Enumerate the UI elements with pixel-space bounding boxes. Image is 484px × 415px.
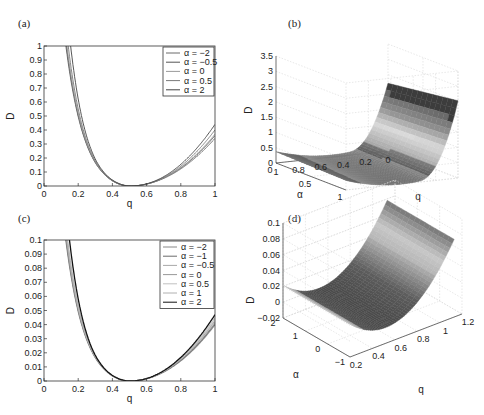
panel-label-b: (b) (288, 17, 301, 30)
y-tick-label: 0.08 (24, 263, 42, 273)
z-tick-label: 1.5 (260, 112, 273, 122)
q-tick-label: 0 (385, 155, 390, 165)
y-tick-label: 0.02 (24, 348, 42, 358)
alpha-tick-label: 0 (315, 344, 320, 354)
y-tick-label: 0.03 (24, 334, 42, 344)
y-tick-label: 0.05 (24, 306, 42, 316)
x-tick-label: 0.4 (106, 384, 119, 394)
alpha-tick-label: 0.5 (299, 179, 312, 189)
y-tick-label: 0 (37, 181, 42, 191)
y-tick-label: 1 (37, 41, 42, 51)
x-tick-label: 0.2 (72, 189, 85, 199)
legend-entry: α = 2 (184, 85, 204, 95)
x-tick-label: 1 (212, 384, 217, 394)
y-tick-label: 0.07 (24, 277, 42, 287)
alpha-tick-label: −1 (335, 357, 345, 367)
z-tick-label: 2.5 (260, 82, 273, 92)
x-axis-label: q (127, 198, 133, 209)
y-tick-label: 0.6 (29, 97, 42, 107)
x-tick-label: 0.8 (175, 384, 188, 394)
q-tick-label: 0.2 (359, 157, 372, 167)
alpha-tick-label: 1 (337, 192, 342, 202)
alpha-tick-label: 2 (270, 318, 275, 328)
z-tick-label: 3.5 (260, 51, 273, 61)
z-tick-label: 3 (268, 66, 273, 76)
z-tick-label: 0.08 (262, 234, 280, 244)
surface (283, 200, 454, 330)
x-tick-label: 0 (41, 384, 46, 394)
z-tick-label: −0.02 (257, 313, 280, 323)
x-tick-label: 0.8 (175, 189, 188, 199)
z-tick-label: 0.06 (262, 250, 280, 260)
y-tick-label: 0.06 (24, 291, 42, 301)
x-tick-label: 0.2 (72, 384, 85, 394)
y-axis-label: D (5, 112, 16, 119)
x-tick-label: 0.6 (140, 189, 153, 199)
y-tick-label: 0.04 (24, 320, 42, 330)
q-tick-label: 0.4 (372, 351, 385, 361)
y-tick-label: 0.1 (29, 167, 42, 177)
x-axis-label: q (127, 393, 133, 404)
q-tick-label: 1.2 (462, 317, 475, 327)
x-tick-label: 0 (41, 189, 46, 199)
z-tick-label: 0.5 (260, 143, 273, 153)
z-tick-label: 2 (268, 97, 273, 107)
z-axis-label: D (245, 296, 256, 303)
q-tick-label: 0.8 (417, 334, 430, 344)
y-tick-label: 0.8 (29, 69, 42, 79)
y-tick-label: 0.5 (29, 111, 42, 121)
y-tick-label: 0.3 (29, 139, 42, 149)
z-tick-label: 0.02 (262, 281, 280, 291)
legend-entry: α = 2 (181, 297, 201, 307)
y-tick-label: 0.1 (29, 235, 42, 245)
z-axis-label: D (243, 106, 254, 113)
panel-label-c: (c) (18, 212, 31, 225)
alpha-axis-label: α (297, 189, 303, 200)
alpha-tick-label: 1 (293, 331, 298, 341)
legend: α = −2α = −1α = −0.5α = 0α = 0.5α = 1α =… (160, 241, 214, 308)
z-tick-label: 0.04 (262, 266, 280, 276)
panel-a-line-chart: 00.20.40.60.8100.10.20.30.40.50.60.70.80… (5, 0, 218, 209)
y-tick-label: 0.2 (29, 153, 42, 163)
figure: (a) (b) (c) (d) 00.20.40.60.8100.10.20.3… (0, 0, 484, 415)
x-tick-label: 0.4 (106, 189, 119, 199)
q-tick-label: 0.2 (350, 360, 363, 370)
q-tick-label: 0.6 (315, 162, 328, 172)
z-tick-label: 0.1 (267, 218, 280, 228)
q-tick-label: 0.8 (292, 165, 305, 175)
y-tick-label: 0.09 (24, 249, 42, 259)
q-tick-label: 0.6 (395, 343, 408, 353)
y-tick-label: 0.01 (24, 362, 42, 372)
z-tick-label: 1 (268, 127, 273, 137)
y-tick-label: 0 (37, 376, 42, 386)
q-axis-label: q (418, 384, 424, 395)
q-tick-label: 1 (443, 326, 448, 336)
panel-b-surface-plot: 00.511.522.533.510.80.60.40.2000.51Dqα (243, 44, 458, 202)
y-tick-label: 0.4 (29, 125, 42, 135)
x-tick-label: 1 (212, 189, 217, 199)
alpha-axis-label: α (293, 369, 299, 380)
panel-d-surface-plot: −0.0200.020.040.060.080.1210−10.20.40.60… (245, 180, 474, 395)
alpha-tick-label: 0 (267, 165, 272, 175)
y-tick-label: 0.7 (29, 83, 42, 93)
legend: α = −2α = −0.5α = 0α = 0.5α = 2 (163, 47, 217, 96)
q-tick-label: 1 (273, 167, 278, 177)
q-tick-label: 0.4 (337, 160, 350, 170)
z-tick-label: 0 (275, 297, 280, 307)
y-axis-label: D (5, 307, 16, 314)
q-axis-label: q (415, 191, 421, 202)
x-tick-label: 0.6 (140, 384, 153, 394)
y-tick-label: 0.9 (29, 55, 42, 65)
panel-label-a: (a) (18, 17, 31, 30)
